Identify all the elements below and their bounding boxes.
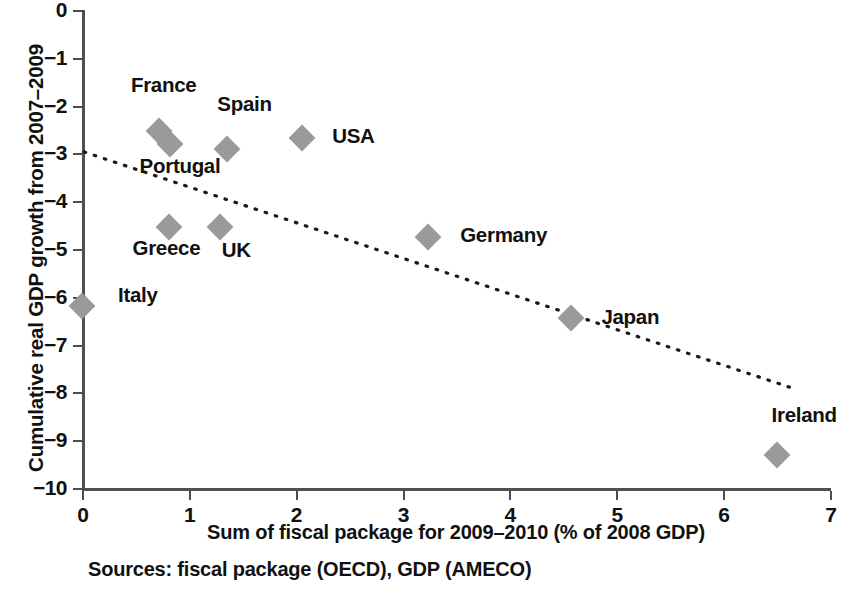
y-tick-label: −5	[44, 236, 67, 262]
x-tick: 2	[296, 491, 298, 500]
scatter-chart-figure: Cumulative real GDP growth from 2007–200…	[0, 0, 847, 595]
y-tick: −4	[73, 201, 82, 203]
data-point-label-ireland: Ireland	[772, 403, 837, 427]
y-tick: −3	[73, 153, 82, 155]
y-tick: −5	[73, 249, 82, 251]
x-tick: 7	[830, 491, 832, 500]
y-tick-label: −9	[44, 427, 67, 453]
y-tick: −8	[73, 392, 82, 394]
y-tick-label: −1	[44, 45, 67, 71]
plot-area: 0−1−2−3−4−5−6−7−8−9−10 01234567 ItalyFra…	[82, 10, 830, 488]
y-tick-label: −2	[44, 93, 67, 119]
y-tick: 0	[73, 10, 82, 12]
data-point-label-japan: Japan	[601, 305, 659, 329]
y-tick-label: −8	[44, 379, 67, 405]
y-tick: −7	[73, 345, 82, 347]
y-tick: −9	[73, 440, 82, 442]
y-tick-label: −6	[44, 284, 67, 310]
y-tick-label: −10	[33, 475, 67, 501]
x-tick: 1	[189, 491, 191, 500]
x-tick: 4	[509, 491, 511, 500]
x-tick: 6	[723, 491, 725, 500]
data-point-label-germany: Germany	[460, 223, 547, 247]
data-point-label-greece: Greece	[133, 236, 201, 260]
data-point-label-uk: UK	[222, 238, 251, 262]
y-tick-label: −4	[44, 188, 67, 214]
data-point-label-usa: USA	[332, 124, 374, 148]
x-tick: 0	[82, 491, 84, 500]
y-tick: −10	[73, 488, 82, 490]
x-tick: 3	[403, 491, 405, 500]
y-tick-label: 0	[56, 0, 67, 23]
y-tick: −1	[73, 58, 82, 60]
y-tick: −2	[73, 106, 82, 108]
y-tick-label: −7	[44, 332, 67, 358]
x-axis-line	[82, 488, 831, 491]
source-note: Sources: fiscal package (OECD), GDP (AME…	[88, 558, 531, 581]
data-point-label-france: France	[131, 73, 196, 97]
x-axis-title: Sum of fiscal package for 2009–2010 (% o…	[82, 521, 830, 544]
data-point-label-italy: Italy	[118, 283, 158, 307]
data-point-label-spain: Spain	[217, 92, 271, 116]
y-tick-label: −3	[44, 140, 67, 166]
x-tick: 5	[616, 491, 618, 500]
data-point-label-portugal: Portugal	[140, 154, 221, 178]
